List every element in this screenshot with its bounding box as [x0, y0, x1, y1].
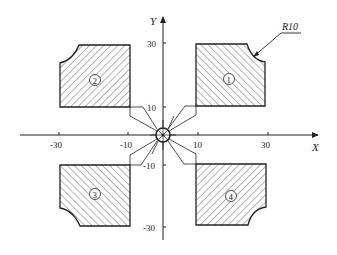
x-tick-label: 10 — [193, 140, 203, 150]
y-tick-label: -30 — [143, 223, 155, 233]
region-4-label: 4 — [229, 192, 234, 202]
center-hub — [156, 128, 170, 142]
region-4: 4 — [196, 164, 266, 225]
radius-annotation: R10 — [253, 21, 301, 57]
x-tick-label: 30 — [261, 140, 271, 150]
region-2: 2 — [60, 45, 130, 107]
x-tick-label: -30 — [50, 140, 62, 150]
y-axis-label: Y — [150, 15, 158, 27]
diagram-canvas: X Y -30 -10 10 30 30 10 -10 -30 1 2 3 4 … — [0, 0, 337, 255]
radius-label: R10 — [281, 21, 298, 32]
region-1: 1 — [196, 44, 265, 106]
region-2-label: 2 — [93, 76, 98, 86]
region-3: 3 — [60, 165, 130, 226]
coordinate-diagram: X Y -30 -10 10 30 30 10 -10 -30 1 2 3 4 … — [0, 0, 337, 255]
y-tick-label: 30 — [147, 39, 157, 49]
x-axis-label: X — [311, 141, 320, 153]
y-tick-label: 10 — [147, 103, 157, 113]
y-tick-label: -10 — [143, 161, 155, 171]
x-tick-label: -10 — [120, 140, 132, 150]
region-3-label: 3 — [93, 190, 98, 200]
region-1-label: 1 — [227, 75, 232, 85]
